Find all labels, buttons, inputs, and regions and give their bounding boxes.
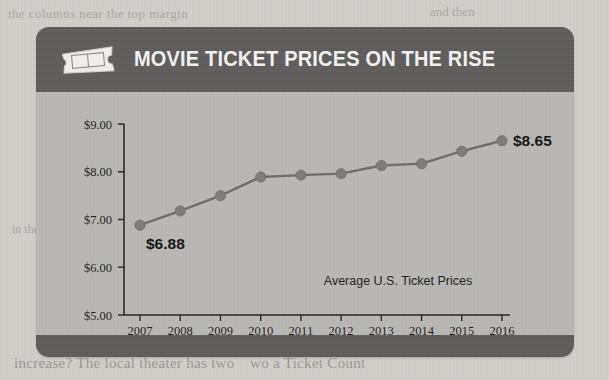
- bleed-text-top-right: and then: [430, 4, 474, 20]
- x-tick-label: 2015: [449, 324, 474, 335]
- x-tick-label: 2009: [208, 324, 233, 335]
- series-line: [140, 141, 502, 226]
- x-tick-label: 2014: [409, 324, 435, 335]
- y-tick-label: $6.00: [84, 261, 112, 275]
- x-axis-ticks: [140, 315, 502, 321]
- point-label-first: $6.88: [146, 235, 185, 252]
- chart-annotation: Average U.S. Ticket Prices: [324, 274, 472, 288]
- movie-ticket-icon: [60, 45, 116, 75]
- point-label-last: $8.65: [513, 132, 552, 149]
- card-body: $5.00$6.00$7.00$8.00$9.00 20072008200920…: [36, 92, 574, 335]
- x-tick-label: 2016: [490, 324, 515, 335]
- y-tick-label: $7.00: [84, 213, 112, 227]
- x-tick-label: 2012: [329, 324, 354, 335]
- y-axis-ticks: [118, 124, 124, 315]
- bleed-text-middle-left: in the: [12, 222, 39, 237]
- data-point-marker: [175, 206, 185, 216]
- data-point-marker: [135, 220, 145, 230]
- y-tick-label: $9.00: [84, 118, 112, 132]
- x-tick-label: 2013: [369, 324, 394, 335]
- bleed-text-bottom-right: wo a Ticket Count: [250, 355, 366, 372]
- card-title: MOVIE TICKET PRICES ON THE RISE: [134, 47, 495, 72]
- data-point-marker: [215, 190, 225, 200]
- x-tick-label: 2007: [128, 324, 153, 335]
- x-axis-labels: 2007200820092010201120122013201420152016: [128, 324, 515, 335]
- x-tick-label: 2010: [248, 324, 273, 335]
- infographic-card: MOVIE TICKET PRICES ON THE RISE $5.00$6.…: [36, 27, 574, 357]
- x-tick-label: 2011: [289, 324, 314, 335]
- data-point-marker: [497, 136, 507, 146]
- y-tick-label: $5.00: [84, 309, 112, 323]
- data-point-marker: [416, 158, 426, 168]
- data-point-marker: [255, 172, 265, 182]
- y-axis-labels: $5.00$6.00$7.00$8.00$9.00: [84, 118, 112, 323]
- data-point-marker: [376, 160, 386, 170]
- data-point-marker: [457, 146, 467, 156]
- bleed-text-bottom-left: increase? The local theater has two: [14, 355, 235, 372]
- data-point-marker: [336, 168, 346, 178]
- card-header: MOVIE TICKET PRICES ON THE RISE: [36, 27, 574, 92]
- data-point-marker: [296, 170, 306, 180]
- card-footer: [36, 335, 574, 357]
- line-chart: $5.00$6.00$7.00$8.00$9.00 20072008200920…: [36, 92, 574, 335]
- bleed-text-top-left: the columns near the top margin: [8, 6, 188, 22]
- y-tick-label: $8.00: [84, 165, 112, 179]
- x-tick-label: 2008: [168, 324, 193, 335]
- series-markers: [135, 136, 507, 231]
